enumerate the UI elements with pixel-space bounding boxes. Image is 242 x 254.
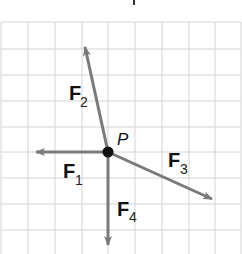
vector-label-f3: F (168, 149, 180, 171)
force-diagram: P F1F2F3F4 (0, 0, 242, 254)
vector-subscript-f2: 2 (80, 94, 88, 110)
vector-arrow-f2 (85, 47, 108, 152)
point-p-label: P (117, 130, 129, 149)
point-p-dot (103, 147, 114, 158)
vector-label-f1: F (63, 160, 75, 182)
vector-label-f4: F (117, 198, 129, 220)
vector-subscript-f3: 3 (180, 161, 188, 177)
vector-subscript-f4: 4 (129, 209, 137, 225)
vector-arrow-f3 (108, 152, 212, 199)
vector-subscript-f1: 1 (75, 172, 83, 188)
